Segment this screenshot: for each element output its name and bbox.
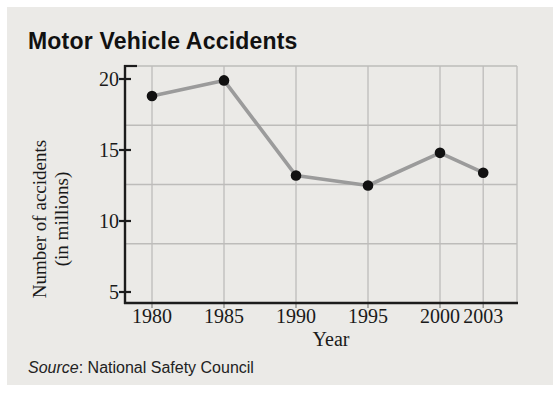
data-point	[363, 180, 374, 191]
data-point	[435, 148, 446, 159]
x-axis-label: Year	[266, 328, 396, 351]
x-tick-label: 1980	[132, 305, 172, 327]
data-point	[219, 75, 230, 86]
data-line	[152, 80, 483, 185]
x-tick-label: 1990	[276, 305, 316, 327]
page: Motor Vehicle Accidents Number of accide…	[0, 0, 557, 408]
y-tick-label: 5	[109, 281, 119, 303]
x-tick-label: 1995	[348, 305, 388, 327]
data-point	[147, 91, 158, 102]
y-tick-label: 15	[99, 139, 119, 161]
source-note: Source: National Safety Council	[28, 359, 254, 377]
x-tick-label: 1985	[204, 305, 244, 327]
y-tick-label: 10	[99, 210, 119, 232]
data-point	[478, 167, 489, 178]
x-tick-label: 2003	[463, 305, 503, 327]
y-tick-label: 20	[99, 68, 119, 90]
source-prefix: Source	[28, 359, 79, 376]
source-text: : National Safety Council	[79, 359, 254, 376]
x-tick-label: 2000	[420, 305, 460, 327]
data-point	[291, 170, 302, 181]
